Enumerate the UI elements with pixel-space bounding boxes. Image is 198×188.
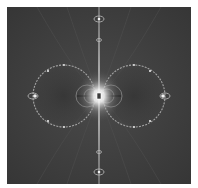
fractal-graphic [7, 7, 191, 184]
fractal-image [7, 7, 191, 184]
